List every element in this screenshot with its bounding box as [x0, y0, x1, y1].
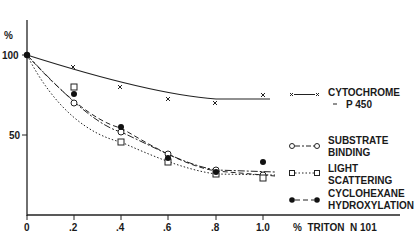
x-axis-label: % TRITON N 101 [293, 222, 377, 233]
y-tick-100: 100 [2, 50, 19, 61]
x-tick-06: .6 [163, 222, 172, 233]
x-tick-10: 1.0 [256, 222, 270, 233]
svg-text:HYDROXYLATION: HYDROXYLATION [328, 200, 414, 211]
substrate-binding-markers [71, 100, 266, 178]
light-scattering-curve [27, 55, 275, 175]
svg-text:P 450: P 450 [346, 99, 372, 110]
svg-text:SUBSTRATE: SUBSTRATE [328, 135, 389, 146]
svg-text:CYTOCHROME: CYTOCHROME [328, 87, 400, 98]
x-tick-0: 0 [24, 222, 30, 233]
svg-text:SCATTERING: SCATTERING [328, 175, 392, 186]
cyclohexane-markers [24, 52, 266, 175]
y-unit-label: % [4, 30, 13, 41]
svg-text:CYCLOHEXANE: CYCLOHEXANE [328, 188, 405, 199]
svg-text:BINDING: BINDING [328, 147, 370, 158]
x-tick-02: .2 [69, 222, 78, 233]
legend-substrate-binding: SUBSTRATE BINDING [290, 135, 389, 158]
legend: CYTOCHROME P 450 SUBSTRATE BINDING LIGHT… [289, 87, 414, 211]
legend-cytochrome: CYTOCHROME P 450 [290, 87, 400, 110]
chart: % 100 50 0 .2 .4 .6 .8 1.0 % TRITON N 10… [0, 0, 415, 237]
legend-light-scattering: LIGHT SCATTERING [290, 163, 393, 186]
cyclohexane-curve [27, 55, 275, 176]
svg-text:LIGHT: LIGHT [328, 163, 358, 174]
legend-cyclohexane: CYCLOHEXANE HYDROXYLATION [289, 188, 414, 211]
x-tick-04: .4 [116, 222, 125, 233]
y-tick-50: 50 [9, 130, 21, 141]
x-tick-08: .8 [211, 222, 220, 233]
